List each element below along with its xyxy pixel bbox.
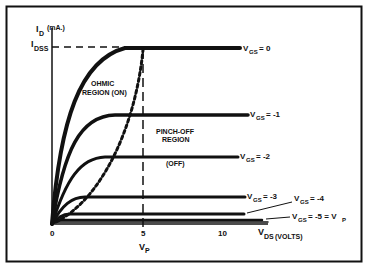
svg-text:= 0: = 0: [259, 44, 271, 53]
x-tick-10: 10: [218, 229, 227, 238]
x-tick-0: 0: [50, 229, 55, 238]
svg-text:GS: GS: [256, 115, 265, 121]
svg-text:= -1: = -1: [266, 110, 281, 119]
vp-label-sub: P: [145, 247, 150, 254]
fet-characteristic-chart: I D (mA.) I DSS 0 5 10 V P V DS (VOLTS) …: [0, 0, 368, 268]
pointer-vgs-4: [247, 202, 292, 213]
pointer-vgs-5: [266, 217, 290, 219]
svg-text:GS: GS: [298, 217, 307, 223]
pinch-off-label-2: REGION: [162, 136, 190, 143]
y-axis-label-unit: (mA.): [47, 24, 65, 32]
svg-text:= -3: = -3: [263, 192, 278, 201]
off-region-label: (OFF): [166, 160, 185, 168]
x-axis-label-unit: (VOLTS): [275, 233, 302, 241]
svg-text:= -5 = V: = -5 = V: [308, 212, 337, 221]
svg-text:GS: GS: [249, 49, 258, 55]
x-axis-label-sub: DS: [264, 233, 274, 240]
svg-text:P: P: [342, 217, 346, 223]
svg-text:GS: GS: [246, 157, 255, 163]
label-vgs-0: V GS = 0: [243, 44, 271, 55]
svg-text:GS: GS: [300, 199, 309, 205]
curve-vgs-1: [52, 115, 248, 224]
label-vgs-4: V GS = -4: [294, 194, 325, 205]
label-vgs-1: V GS = -1: [250, 110, 281, 121]
svg-text:= -2: = -2: [256, 152, 271, 161]
idss-label-sub: DSS: [34, 45, 49, 52]
pinch-off-label-1: PINCH-OFF: [156, 128, 195, 135]
ohmic-region-label-1: OHMIC: [91, 80, 114, 87]
label-vgs-2: V GS = -2: [240, 152, 271, 163]
label-vgs-3: V GS = -3: [247, 192, 278, 203]
ohmic-region-label-2: REGION (ON): [82, 89, 127, 97]
label-vgs-5: V GS = -5 = V P: [292, 212, 346, 223]
x-tick-5: 5: [141, 229, 146, 238]
svg-text:GS: GS: [253, 197, 262, 203]
svg-text:= -4: = -4: [310, 194, 325, 203]
y-axis-label-sub: D: [39, 30, 44, 37]
